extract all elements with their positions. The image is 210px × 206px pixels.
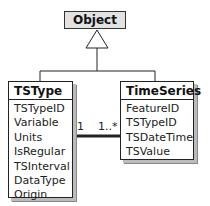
attribute: TSTypeID [14, 102, 68, 116]
attribute: Origin [14, 188, 68, 202]
multiplicity-to: 1..* [98, 121, 118, 133]
class-object: Object [64, 11, 126, 29]
attribute: TSInterval [14, 160, 68, 174]
class-name: TSType [9, 82, 72, 100]
class-timeseries: TimeSeries FeatureID TSTypeID TSDateTime… [120, 81, 194, 160]
attribute-list: TSTypeID Variable Units IsRegular TSInte… [9, 100, 72, 205]
multiplicity-from: 1 [77, 121, 84, 133]
attribute-list: FeatureID TSTypeID TSDateTime TSValue [121, 100, 193, 162]
class-name: Object [73, 13, 117, 27]
attribute: TSDateTime [126, 131, 189, 145]
attribute: FeatureID [126, 102, 189, 116]
attribute: Units [14, 131, 68, 145]
generalization-arrow-icon [86, 30, 108, 48]
class-tstype: TSType TSTypeID Variable Units IsRegular… [8, 81, 73, 198]
attribute: IsRegular [14, 145, 68, 159]
attribute: DataType [14, 174, 68, 188]
attribute: TSValue [126, 145, 189, 159]
attribute: TSTypeID [126, 116, 189, 130]
attribute: Variable [14, 116, 68, 130]
class-name: TimeSeries [121, 82, 193, 100]
